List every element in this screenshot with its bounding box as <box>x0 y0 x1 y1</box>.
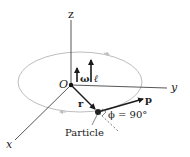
ell-label: ℓ <box>94 73 98 84</box>
y-axis <box>71 85 167 88</box>
p-label: p <box>145 94 152 105</box>
omega-label: ω <box>80 73 90 84</box>
origin-label: O <box>59 78 68 91</box>
r-label: r <box>78 98 84 109</box>
particle-label: Particle <box>65 127 104 138</box>
origin-point <box>69 83 73 87</box>
r-vector <box>72 86 95 109</box>
y-axis-label: y <box>170 81 178 94</box>
angular-momentum-diagram: z y x O ω ℓ r p ϕ = 90° Particle <box>0 0 190 157</box>
phi-angle-label: ϕ = 90° <box>108 109 147 120</box>
x-axis-label: x <box>6 138 13 151</box>
particle-point <box>95 109 101 115</box>
z-axis-label: z <box>68 8 74 21</box>
